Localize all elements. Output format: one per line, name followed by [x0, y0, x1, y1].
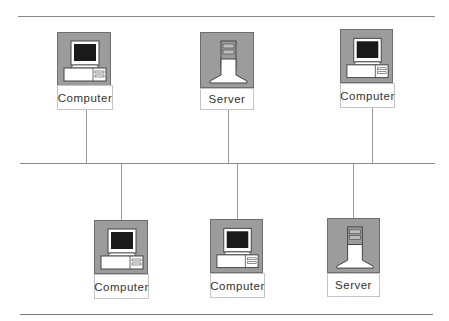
node-label: Server — [327, 273, 380, 297]
top-border-line — [18, 16, 435, 17]
node-label: Computer — [340, 83, 395, 108]
server-icon — [327, 218, 380, 273]
server-icon — [200, 32, 254, 88]
connector-top-3 — [372, 108, 373, 163]
connector-bottom-2 — [237, 163, 238, 219]
node-label: Computer — [94, 274, 149, 299]
connector-bottom-3 — [353, 163, 354, 218]
node-computer-2: Computer — [340, 29, 395, 108]
node-label: Server — [200, 88, 254, 110]
computer-icon — [340, 29, 393, 83]
connector-top-1 — [86, 110, 87, 163]
computer-icon — [94, 220, 148, 274]
connector-top-2 — [228, 110, 229, 163]
bottom-border-line — [20, 314, 433, 315]
computer-icon — [210, 219, 263, 273]
node-server-2: Server — [327, 218, 380, 297]
node-computer-4: Computer — [210, 219, 265, 298]
node-computer-3: Computer — [94, 220, 149, 299]
computer-icon — [57, 32, 111, 86]
network-bus-line — [20, 163, 435, 164]
node-computer-1: Computer — [57, 32, 113, 110]
node-label: Computer — [210, 273, 265, 298]
node-server-1: Server — [200, 32, 254, 110]
connector-bottom-1 — [121, 163, 122, 220]
node-label: Computer — [57, 85, 113, 110]
